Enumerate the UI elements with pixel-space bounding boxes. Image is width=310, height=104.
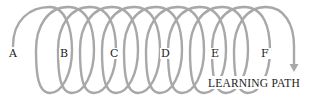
arrow-head-icon bbox=[290, 64, 299, 72]
stage-label-e: E bbox=[211, 47, 219, 60]
stage-labels: A B C D E F bbox=[8, 47, 271, 60]
stage-label-a: A bbox=[8, 47, 18, 60]
stage-label-b: B bbox=[60, 47, 68, 60]
stage-label-d: D bbox=[161, 47, 170, 60]
stage-label-f: F bbox=[261, 47, 269, 60]
spiral-diagram: A B C D E F LEARNING PATH bbox=[0, 0, 310, 104]
stage-label-c: C bbox=[110, 47, 118, 60]
learning-path-label: LEARNING PATH bbox=[208, 77, 300, 89]
